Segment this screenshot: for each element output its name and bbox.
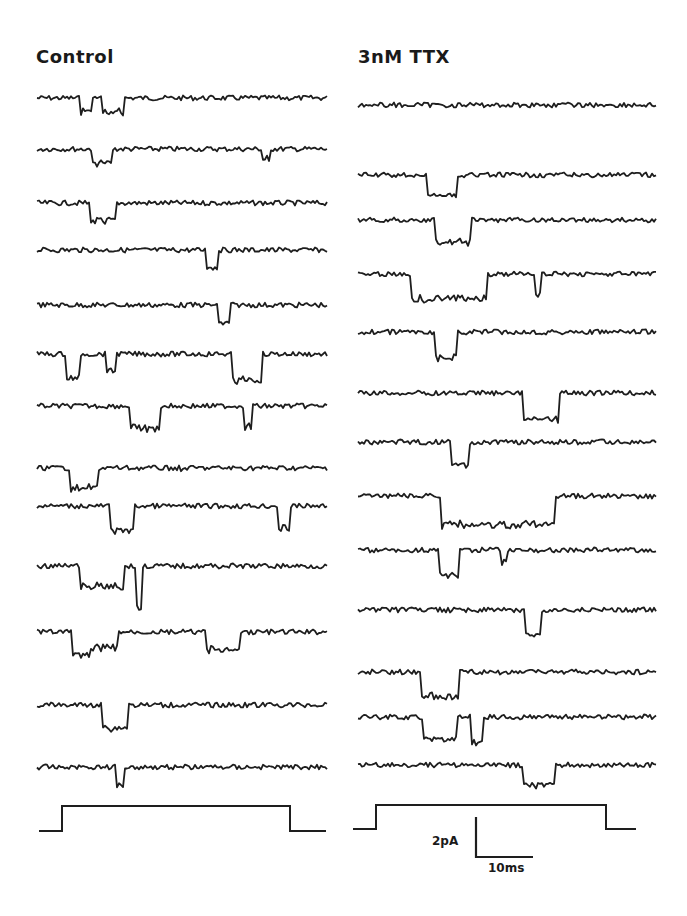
current-trace — [358, 715, 656, 746]
current-trace — [37, 630, 327, 658]
scale-bar-current-label: 2pA — [432, 834, 458, 848]
current-trace — [37, 703, 327, 732]
current-trace — [37, 564, 327, 610]
current-trace — [358, 548, 656, 579]
voltage-step-protocol — [353, 805, 636, 829]
current-trace — [358, 494, 656, 529]
current-trace — [37, 466, 327, 492]
current-trace — [358, 218, 656, 246]
current-trace — [358, 173, 656, 198]
current-trace — [37, 147, 327, 167]
current-trace — [358, 608, 656, 637]
current-trace — [358, 391, 656, 423]
current-trace — [358, 330, 656, 362]
current-trace — [358, 670, 656, 700]
current-trace — [37, 96, 327, 116]
current-trace — [37, 504, 327, 535]
current-trace — [358, 103, 656, 108]
current-trace — [37, 765, 327, 788]
current-trace — [37, 248, 327, 270]
scale-bar — [476, 817, 533, 857]
current-trace — [37, 352, 327, 384]
control-traces — [37, 96, 327, 832]
current-trace — [358, 440, 656, 468]
ttx-traces — [353, 103, 656, 830]
voltage-step-protocol — [39, 806, 326, 831]
current-trace — [37, 404, 327, 433]
current-trace — [37, 201, 327, 224]
current-trace — [37, 303, 327, 325]
scale-bar-time-label: 10ms — [488, 861, 524, 875]
current-trace — [358, 763, 656, 789]
current-trace — [358, 272, 656, 303]
current-traces-figure — [0, 0, 687, 916]
